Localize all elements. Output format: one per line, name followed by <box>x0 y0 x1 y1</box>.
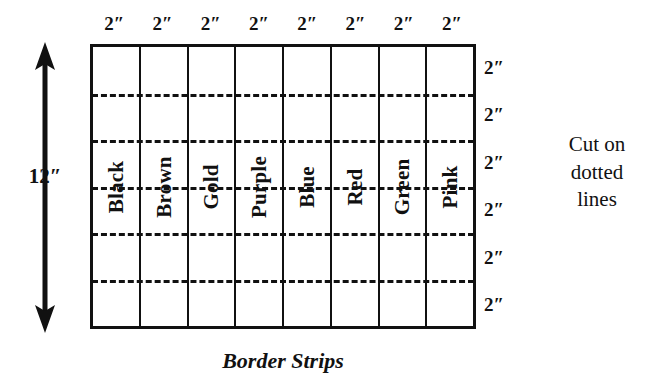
cut-line <box>92 94 474 97</box>
top-dimension-label: 2″ <box>138 9 186 39</box>
strip-label: Blue <box>296 166 317 208</box>
right-dimension-label: 2″ <box>482 139 528 187</box>
border-strips-grid: Black Brown Gold Purple Blue Red Green P… <box>90 44 476 329</box>
cut-line <box>92 233 474 236</box>
strip-label: Red <box>344 168 365 205</box>
note-line: dotted <box>536 159 658 187</box>
top-dimension-labels: 2″ 2″ 2″ 2″ 2″ 2″ 2″ 2″ <box>90 9 476 39</box>
strip-label: Pink <box>440 165 461 208</box>
right-dimension-label: 2″ <box>482 187 528 235</box>
strip-label: Gold <box>201 164 222 209</box>
strip-label: Brown <box>153 156 174 217</box>
right-dimension-label: 2″ <box>482 234 528 282</box>
cut-line <box>92 280 474 283</box>
strip-label: Purple <box>249 156 270 218</box>
right-dimension-label: 2″ <box>482 44 528 92</box>
diagram-canvas: 2″ 2″ 2″ 2″ 2″ 2″ 2″ 2″ 12″ Black Brown … <box>0 0 663 386</box>
top-dimension-label: 2″ <box>235 9 283 39</box>
figure-caption: Border Strips <box>90 348 476 374</box>
right-dimension-label: 2″ <box>482 92 528 140</box>
note-line: Cut on <box>536 131 658 159</box>
height-dimension-label: 12″ <box>14 165 76 187</box>
top-dimension-label: 2″ <box>380 9 428 39</box>
right-dimension-labels: 2″ 2″ 2″ 2″ 2″ 2″ <box>482 44 528 329</box>
strip-label: Black <box>105 160 126 212</box>
cut-line <box>92 140 474 143</box>
cut-line <box>92 187 474 190</box>
top-dimension-label: 2″ <box>90 9 138 39</box>
note-line: lines <box>536 186 658 214</box>
strip-label: Green <box>392 158 413 215</box>
top-dimension-label: 2″ <box>187 9 235 39</box>
top-dimension-label: 2″ <box>283 9 331 39</box>
top-dimension-label: 2″ <box>331 9 379 39</box>
right-dimension-label: 2″ <box>482 282 528 330</box>
cut-instruction-note: Cut on dotted lines <box>536 131 658 214</box>
top-dimension-label: 2″ <box>428 9 476 39</box>
